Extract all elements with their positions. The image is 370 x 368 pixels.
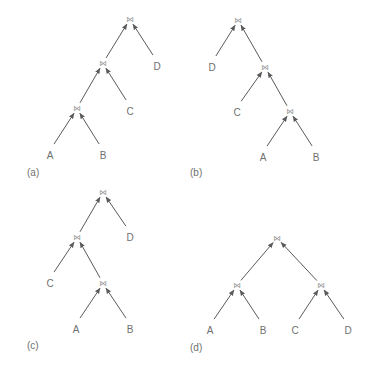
edge-arrow-A-to-j3 [54, 113, 74, 144]
join-operator-icon: ⋈ [99, 279, 107, 288]
relation-label-B: B [260, 325, 267, 336]
panel-caption: (c) [27, 340, 39, 351]
panel-caption: (b) [190, 167, 202, 178]
join-operator-icon: ⋈ [286, 107, 294, 116]
panel-c-zig-zag: ⋈⋈DC⋈AB(c) [27, 188, 134, 351]
join-operator-icon: ⋈ [273, 234, 281, 243]
edge-arrow-D-to-j1 [133, 24, 153, 55]
join-tree-diagrams: ⋈⋈⋈ABCD(a)⋈D⋈C⋈AB(b)⋈⋈DC⋈AB(c)⋈⋈⋈ABCD(d) [0, 0, 370, 368]
edge-arrow-j2-to-j1 [80, 197, 100, 232]
edge-arrow-C-to-j2 [106, 68, 126, 100]
panel-caption: (d) [190, 342, 202, 353]
relation-label-D: D [126, 232, 133, 243]
edge-arrow-j2-to-j1 [241, 25, 262, 62]
panel-a-left-deep: ⋈⋈⋈ABCD(a) [27, 15, 161, 178]
relation-label-D: D [153, 61, 160, 72]
edge-arrow-j2-to-j1 [106, 24, 127, 58]
edge-arrow-A-to-j3 [80, 288, 100, 318]
edge-arrow-D-to-j1 [216, 25, 235, 56]
panels-root: ⋈⋈⋈ABCD(a)⋈D⋈C⋈AB(b)⋈⋈DC⋈AB(c)⋈⋈⋈ABCD(d) [27, 15, 352, 353]
edge-arrow-C-to-j3 [299, 290, 318, 319]
edge-arrow-A-to-j3 [267, 116, 287, 146]
relation-label-A: A [260, 152, 267, 163]
edge-arrow-j3-to-j2 [268, 72, 287, 106]
relation-label-C: C [233, 107, 240, 118]
join-operator-icon: ⋈ [261, 63, 269, 72]
edge-arrow-A-to-j2 [214, 290, 234, 319]
relation-label-C: C [126, 106, 133, 117]
join-operator-icon: ⋈ [126, 15, 134, 24]
join-operator-icon: ⋈ [73, 233, 81, 242]
edge-arrow-D-to-j1 [106, 197, 126, 226]
panel-b-right-deep: ⋈D⋈C⋈AB(b) [190, 16, 320, 178]
relation-label-D: D [344, 325, 351, 336]
relation-label-A: A [73, 324, 80, 335]
relation-label-A: A [47, 150, 54, 161]
edge-arrow-B-to-j3 [80, 113, 99, 144]
join-operator-icon: ⋈ [234, 16, 242, 25]
edge-arrow-j3-to-j2 [80, 68, 100, 103]
edge-arrow-B-to-j3 [106, 288, 126, 318]
relation-label-C: C [46, 278, 53, 289]
edge-arrow-C-to-j2 [54, 242, 74, 272]
edge-arrow-C-to-j2 [241, 72, 262, 101]
relation-label-A: A [207, 325, 214, 336]
join-operator-icon: ⋈ [317, 281, 325, 290]
relation-label-B: B [100, 150, 107, 161]
join-operator-icon: ⋈ [233, 281, 241, 290]
edge-arrow-j2-to-j1 [241, 243, 273, 281]
edge-arrow-B-to-j3 [293, 116, 312, 146]
relation-label-D: D [208, 62, 215, 73]
join-operator-icon: ⋈ [99, 188, 107, 197]
relation-label-B: B [313, 152, 320, 163]
edge-arrow-j3-to-j2 [80, 242, 100, 278]
relation-label-C: C [291, 325, 298, 336]
relation-label-B: B [127, 324, 134, 335]
panel-caption: (a) [27, 167, 39, 178]
join-operator-icon: ⋈ [73, 104, 81, 113]
panel-d-bushy: ⋈⋈⋈ABCD(d) [190, 234, 352, 353]
join-operator-icon: ⋈ [99, 59, 107, 68]
edge-arrow-D-to-j3 [324, 290, 344, 319]
edge-arrow-j3-to-j1 [281, 242, 317, 280]
edge-arrow-B-to-j2 [240, 290, 259, 319]
